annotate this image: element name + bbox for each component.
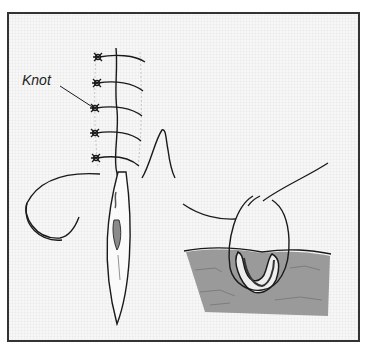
open-wound: [107, 172, 130, 324]
cross-section: [183, 163, 331, 316]
curved-needle: [26, 174, 100, 241]
sutured-wound: [95, 48, 145, 190]
suture-illustration: [0, 0, 370, 355]
knot-leader-line: [60, 86, 94, 108]
thread-loop: [142, 130, 175, 178]
knot-label: Knot: [22, 72, 51, 88]
